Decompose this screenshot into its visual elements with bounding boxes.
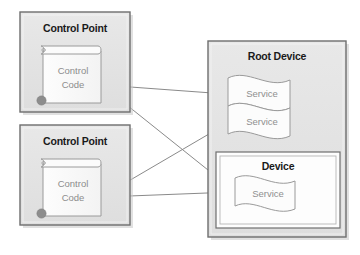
control-point-2-code-label-line2: Code [62, 192, 85, 203]
diagram-canvas: Control Point Control Code Control Point [0, 0, 360, 255]
root-device[interactable]: Root Device Service Service Device Servi… [208, 41, 349, 240]
root-device-service-2-label: Service [246, 116, 278, 127]
root-device-label: Root Device [248, 50, 307, 62]
control-point-1-code-label-line1: Control [58, 65, 89, 76]
control-point-2-code-scroll[interactable]: Control Code [37, 159, 101, 218]
control-point-2-scroll-knob [37, 209, 46, 218]
control-point-2[interactable]: Control Point Control Code [20, 125, 133, 228]
control-point-1[interactable]: Control Point Control Code [20, 12, 133, 115]
control-point-2-code-label-line1: Control [58, 178, 89, 189]
control-point-1-scroll-knob [37, 96, 46, 105]
nested-device-label: Device [262, 160, 295, 172]
upnp-architecture-diagram: Control Point Control Code Control Point [0, 0, 360, 255]
control-point-2-label: Control Point [43, 135, 108, 147]
nested-device[interactable]: Device Service [216, 152, 340, 228]
control-point-1-code-scroll[interactable]: Control Code [37, 46, 101, 105]
control-point-1-code-label-line2: Code [62, 79, 85, 90]
nested-device-service-1-label: Service [252, 188, 284, 199]
control-point-1-label: Control Point [43, 22, 108, 34]
root-device-service-1-label: Service [246, 88, 278, 99]
